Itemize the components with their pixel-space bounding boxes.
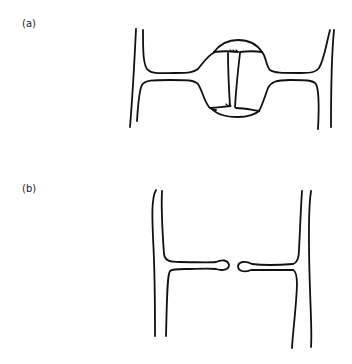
panel-a-right-lower-arm — [259, 80, 319, 129]
panel-a-left-wall-outer — [130, 29, 136, 127]
panel-b-right-knob-arm — [238, 262, 293, 271]
panel-b-left-lower-arm — [166, 269, 185, 336]
panel-b-left-wall-outer — [152, 190, 156, 336]
diagram-canvas — [0, 0, 352, 364]
panel-a-right-upper-arm — [262, 30, 330, 73]
panel-b-right-lower-arm — [292, 270, 297, 348]
panel-a-bulge-top — [214, 40, 262, 52]
panel-a-left-lower-arm — [137, 80, 216, 121]
panel-a-channel-left — [228, 53, 230, 106]
panel-a-right-chamber-top — [240, 51, 262, 52]
panel-b-left-upper-arm — [162, 191, 229, 270]
panel-a-right-wall-outer — [331, 30, 334, 127]
panel-b-drawing — [152, 190, 311, 348]
panel-a-drawing — [130, 29, 334, 129]
panel-a-left-upper-arm — [143, 30, 215, 73]
panel-a-left-chamber-bottom — [211, 106, 230, 108]
panel-a-right-chamber-bottom — [236, 108, 259, 111]
panel-a-channel-right — [235, 53, 240, 107]
panel-b-right-wall-outer — [309, 191, 311, 347]
panel-b-right-upper-curve — [293, 191, 302, 264]
